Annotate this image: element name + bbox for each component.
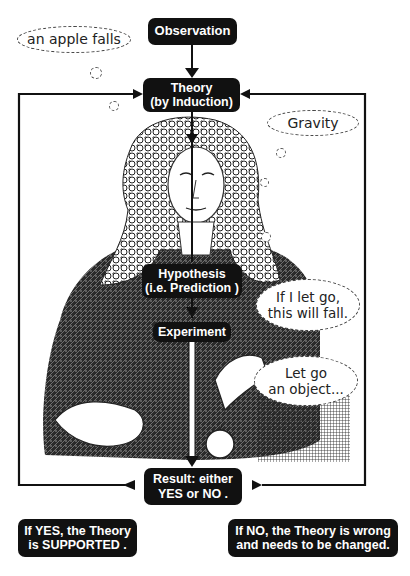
no-outcome-line1: If NO, the Theory is wrong	[235, 524, 391, 538]
bubble-text-line1: If I let go,	[276, 289, 340, 305]
theory-line2: (by Induction)	[150, 95, 233, 109]
hypothesis-box: Hypothesis (i.e. Prediction )	[142, 264, 242, 298]
thought-dot	[260, 178, 269, 187]
experiment-box: Experiment	[153, 322, 231, 342]
yes-outcome-line1: If YES, the Theory	[24, 524, 131, 538]
experiment-label: Experiment	[158, 325, 226, 339]
yes-outcome-line2: is SUPPORTED .	[28, 538, 127, 552]
bubble-text: an apple falls	[27, 31, 121, 48]
bubble-an-apple-falls: an apple falls	[17, 26, 131, 53]
bubble-prediction-example: If I let go, this will fall.	[256, 279, 360, 331]
bubble-text-line2: this will fall.	[268, 305, 348, 321]
theory-box: Theory (by Induction)	[143, 78, 240, 112]
result-line2: YES or NO .	[158, 487, 228, 501]
yes-outcome-box: If YES, the Theory is SUPPORTED .	[18, 519, 137, 557]
thought-dot	[261, 232, 271, 242]
bubble-gravity: Gravity	[267, 110, 359, 136]
bubble-text-line2: an object...	[268, 381, 344, 397]
observation-label: Observation	[155, 24, 231, 39]
result-line1: Result: either	[153, 472, 233, 486]
result-box: Result: either YES or NO .	[144, 468, 242, 505]
thought-dot	[276, 148, 286, 158]
theory-line1: Theory	[171, 81, 213, 95]
no-outcome-box: If NO, the Theory is wrong and needs to …	[228, 519, 398, 557]
hypothesis-line1: Hypothesis	[158, 267, 225, 281]
thought-dot	[90, 67, 102, 79]
bubble-text-line1: Let go	[285, 365, 327, 381]
bubble-experiment-example: Let go an object...	[254, 356, 358, 406]
bubble-text: Gravity	[287, 115, 338, 132]
thought-dot	[109, 101, 119, 111]
observation-box: Observation	[148, 18, 237, 45]
hypothesis-line2: (i.e. Prediction )	[145, 281, 239, 295]
no-outcome-line2: and needs to be changed.	[236, 538, 390, 552]
